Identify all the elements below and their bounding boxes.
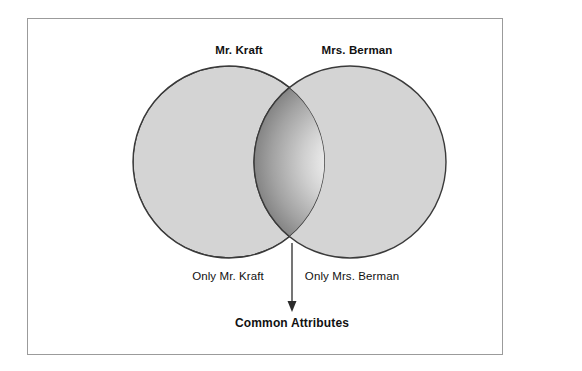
label-only-left-set: Only Mr. Kraft	[192, 271, 264, 283]
label-right-set: Mrs. Berman	[322, 45, 393, 57]
label-common-attributes: Common Attributes	[235, 317, 349, 329]
common-attributes-arrow-head	[288, 301, 297, 312]
label-left-set: Mr. Kraft	[215, 45, 263, 57]
venn-diagram-figure: Mr. Kraft Mrs. Berman Only Mr. Kraft Onl…	[0, 0, 582, 371]
label-only-right-set: Only Mrs. Berman	[305, 271, 399, 283]
